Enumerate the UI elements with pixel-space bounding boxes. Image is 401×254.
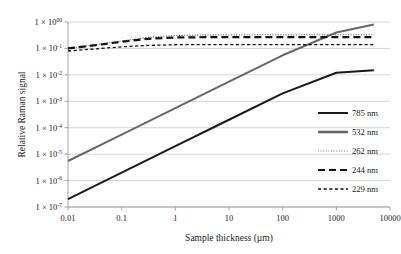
y-tick-label: 1 × 10-7 <box>36 202 63 212</box>
y-tick-labels: 1 × 10001 × 10-11 × 10-21 × 10-31 × 10-4… <box>35 17 63 212</box>
x-axis-label: Sample thickness (µm) <box>185 233 273 244</box>
y-tick-label: 1 × 10-6 <box>36 175 63 185</box>
y-tick-label: 1 × 10-4 <box>36 123 63 133</box>
legend: 785 nm532 nm262 nm244 nm229 nm <box>318 108 378 194</box>
y-tick-label: 1 × 10-1 <box>36 43 63 53</box>
axis-spines <box>68 22 390 207</box>
chart-figure: 0.010.1110100100010000 1 × 10001 × 10-11… <box>0 0 401 254</box>
x-tick-label: 1000 <box>328 213 345 223</box>
x-tick-label: 100 <box>276 213 289 223</box>
legend-label-262-nm: 262 nm <box>352 146 378 156</box>
series-line-785-nm <box>68 70 374 199</box>
legend-label-229-nm: 229 nm <box>352 184 378 194</box>
y-tick-label: 1 × 10-5 <box>36 149 63 159</box>
y-axis-label: Relative Raman signal <box>17 71 27 157</box>
x-tick-label: 0.1 <box>116 213 127 223</box>
legend-label-532-nm: 532 nm <box>352 127 378 137</box>
x-tick-marks <box>68 207 390 211</box>
series-line-244-nm <box>68 37 374 48</box>
x-tick-label: 10 <box>225 213 234 223</box>
grid-lines <box>68 22 390 207</box>
y-tick-label: 1 × 10-2 <box>36 70 63 80</box>
y-tick-label: 1 × 10-3 <box>36 96 63 106</box>
legend-label-785-nm: 785 nm <box>352 108 378 118</box>
y-tick-marks <box>65 22 69 207</box>
legend-label-244-nm: 244 nm <box>352 165 378 175</box>
raman-signal-log-log-chart: 0.010.1110100100010000 1 × 10001 × 10-11… <box>0 0 401 254</box>
x-tick-labels: 0.010.1110100100010000 <box>61 213 401 223</box>
x-tick-label: 10000 <box>379 213 400 223</box>
data-series-group <box>68 25 374 199</box>
x-tick-label: 0.01 <box>61 213 76 223</box>
x-tick-label: 1 <box>173 213 177 223</box>
series-line-229-nm <box>68 45 374 51</box>
y-tick-label: 1 × 1000 <box>35 17 63 27</box>
